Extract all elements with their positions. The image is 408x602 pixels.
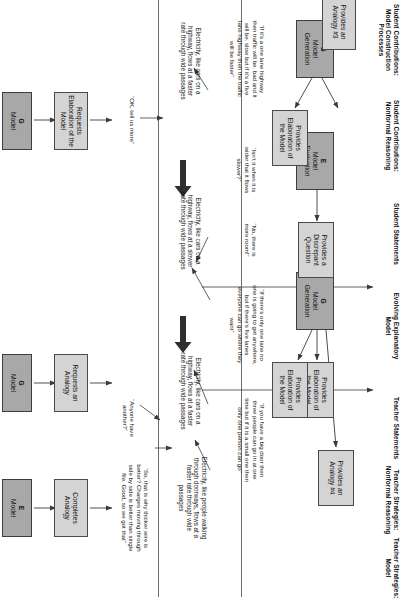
student-statement-wider-slower: “Isn't it when it is wider that it flows… [236,140,258,200]
node-line1: Model [10,374,17,392]
teacher-statement-thicker-wire: “So, that is why thicker wire is better?… [120,462,150,554]
column-header-teacher-statements: Teacher Statements [392,390,400,466]
node-label: Provides an Analogy #4 [328,453,344,503]
node-g-model-generation-2[interactable]: G Model Generation [296,272,334,330]
node-provides-elaboration-1[interactable]: Provides Elaboration of the Model [272,110,308,166]
column-header-teacher-model: Teacher Strategies: Model [385,530,400,602]
node-line1: Model [10,112,17,130]
node-provides-elaboration-3[interactable]: Provides Elaboration of the Model [272,362,308,418]
evolving-model-slower-wide: Electricity, like cars on a highway, flo… [179,192,202,270]
column-header-student-statements: Student Statements [392,196,400,272]
node-label: Provides a Discrepant Question [304,225,329,275]
node-label: Provides an Analogy #3 [331,0,347,47]
node-provides-discrepant-question[interactable]: Provides a Discrepant Question [298,222,334,278]
node-line1: Model [312,40,319,58]
model-evolution-arrow [175,316,192,353]
node-provides-analogy-3[interactable]: Provides an Analogy #3 [322,0,356,50]
node-label: Requests Elaboration of the Model [59,95,84,147]
evolving-model-faster-wide-2: Electricity, like cars on a highway, flo… [179,352,202,430]
node-label: Provides Elaboration of the Model [278,365,303,415]
student-statement-big-door: “If you have a big door then three peopl… [236,398,266,482]
node-code: G [17,357,25,409]
node-line1: Model [10,499,17,517]
node-line1: Model [312,292,319,310]
evolving-model-people-doorways: Electricity, like people walking through… [178,452,208,544]
teacher-statement-anyone-have-another: “Anyone have another?” [121,392,136,444]
node-line2: Generation [304,285,311,318]
node-requests-elaboration[interactable]: Requests Elaboration of the Model [54,92,88,150]
column-header-student-nonformal-reasoning: Student Contributions: Nonformal Reasoni… [385,98,400,174]
node-teacher-g-model-2[interactable]: G Model [2,354,32,412]
node-teacher-e-model[interactable]: E Model [2,479,32,537]
node-label: Requests an Analogy [63,357,79,409]
column-header-evolving-explanatory-model: Evolving Explanatory Model [385,288,400,364]
column-header-student-model-construction: Student Contributions: Model Constructio… [377,2,400,78]
node-completes-analogy[interactable]: Completes Analogy [54,479,88,537]
evolving-model-faster-wide: Electricity, like cars on a highway, flo… [179,22,202,100]
node-requests-analogy[interactable]: Requests an Analogy [54,354,88,412]
student-statement-one-lane-anywhere: “If there's only one lane no one is goin… [229,284,266,366]
node-label: Completes Analogy [63,482,79,534]
node-code: E [319,135,327,187]
node-line2: Generation [304,33,311,66]
teacher-statement-ok-tell-us-more: “OK, tell us more” [129,92,136,148]
column-header-teacher-nonformal-reasoning: Teacher Strategies: Nonformal Reasoning [385,462,400,538]
node-code: G [17,95,25,147]
node-teacher-g-model-1[interactable]: G Model [2,92,32,150]
node-code: E [17,482,25,534]
node-provides-analogy-4[interactable]: Provides an Analogy #4 [318,450,354,506]
node-line1: Model [312,152,319,170]
student-statement-no-more-room: “No, there is more room!” [243,218,258,262]
student-statement-one-lane-highway: “If it's a one lane highway then traffic… [229,20,266,98]
node-code: G [319,275,327,327]
node-label: Provides Elaboration of the Model [278,113,303,163]
